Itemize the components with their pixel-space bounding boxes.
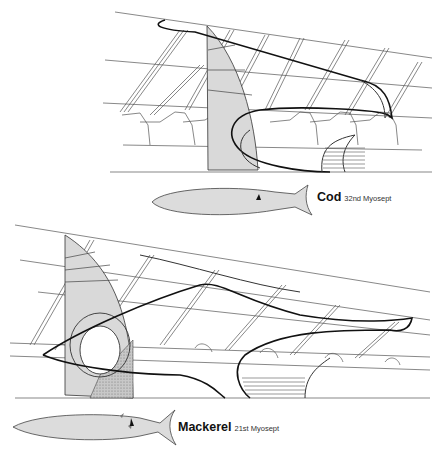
mackerel-fish-icon — [13, 410, 176, 445]
mackerel-myosept-panel — [10, 225, 430, 398]
cod-fish-icon — [152, 185, 312, 215]
cod-label: Cod32nd Myosept — [317, 190, 391, 204]
myosept-diagram — [0, 0, 442, 457]
mackerel-species-name: Mackerel — [178, 420, 232, 434]
mackerel-myosept-number: 21st Myosept — [235, 424, 280, 433]
cod-myosept-panel — [103, 12, 432, 172]
cod-vertebrae — [122, 112, 398, 145]
cod-myosept-number: 32nd Myosept — [344, 194, 391, 203]
mackerel-label: Mackerel21st Myosept — [178, 420, 279, 434]
cod-species-name: Cod — [317, 190, 341, 204]
